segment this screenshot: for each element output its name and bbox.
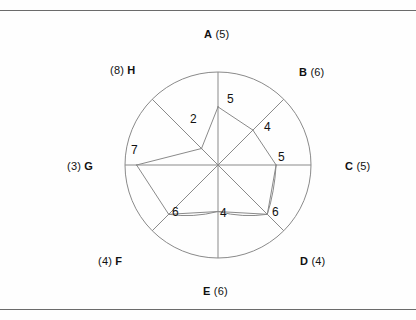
value-vertices — [136, 106, 277, 215]
segment-value-A: 5 — [227, 92, 234, 106]
vertex-D — [267, 214, 269, 216]
spoke-B — [218, 99, 284, 165]
axis-label-D-key: D — [300, 255, 308, 267]
axis-label-B-key: B — [299, 66, 307, 78]
spoke-F — [152, 165, 218, 231]
segment-value-H: 2 — [190, 112, 197, 126]
axis-label-E-key: E — [203, 285, 211, 297]
axis-label-H: (8) H — [110, 64, 135, 76]
vertex-F — [168, 214, 170, 216]
axis-label-G-key: G — [84, 160, 93, 172]
segment-value-E: 4 — [220, 206, 227, 220]
value-polygon — [137, 107, 277, 214]
segment-value-F: 6 — [172, 205, 179, 219]
vertex-C — [275, 164, 277, 166]
axis-label-C-key: C — [345, 160, 353, 172]
segment-value-B: 4 — [264, 120, 271, 134]
segment-value-D: 6 — [272, 205, 279, 219]
axis-spokes — [125, 72, 311, 258]
segment-value-G: 7 — [131, 143, 138, 157]
axis-label-E-value: (6) — [211, 285, 228, 297]
axis-label-F: (4) F — [98, 255, 122, 267]
axis-label-D: D (4) — [300, 255, 325, 267]
axis-label-A: A (5) — [204, 28, 229, 40]
axis-label-F-key: F — [115, 255, 122, 267]
axis-label-A-value: (5) — [212, 28, 229, 40]
vertex-H — [201, 148, 203, 150]
figure-panel: A (5) B (6) C (5) D (4) E (6) (4) F (3) … — [0, 0, 416, 320]
axis-label-A-key: A — [204, 28, 212, 40]
axis-label-H-value: (8) — [110, 64, 127, 76]
vertex-G — [136, 164, 138, 166]
segment-value-C: 5 — [278, 150, 285, 164]
vertex-E — [217, 211, 219, 213]
axis-label-G-value: (3) — [67, 160, 84, 172]
axis-label-B-value: (6) — [307, 66, 324, 78]
axis-label-F-value: (4) — [98, 255, 115, 267]
axis-label-G: (3) G — [67, 160, 93, 172]
axis-label-B: B (6) — [299, 66, 324, 78]
axis-label-H-key: H — [127, 64, 135, 76]
vertex-A — [217, 106, 219, 108]
vertex-B — [252, 129, 254, 131]
axis-label-C-value: (5) — [353, 160, 370, 172]
axis-label-D-value: (4) — [308, 255, 325, 267]
axis-label-C: C (5) — [345, 160, 370, 172]
axis-label-E: E (6) — [203, 285, 228, 297]
